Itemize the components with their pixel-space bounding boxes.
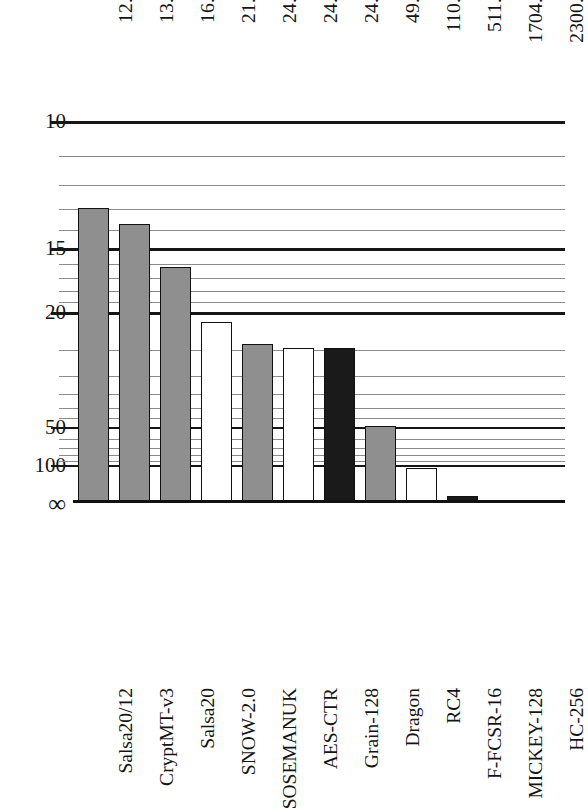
value-label: 110.61: [435, 0, 473, 82]
category-label: Grain-128: [353, 688, 391, 812]
value-label: 1704.76: [517, 0, 555, 82]
value-label: 2300.90: [558, 0, 588, 82]
bar-salsa20: [160, 267, 190, 503]
value-label: 16.17: [189, 0, 227, 82]
axis-tick: [59, 350, 73, 351]
category-label: SNOW-2.0: [230, 688, 268, 812]
category-label: CryptMT-v3: [148, 688, 186, 812]
axis-tick: [59, 278, 73, 279]
value-label: 24.66: [312, 0, 350, 82]
value-label: 24.07: [271, 0, 309, 82]
bar-snow-2-0: [201, 322, 231, 503]
category-label: Dragon: [394, 688, 432, 812]
bar-rc4: [406, 468, 436, 503]
axis-tick: [59, 156, 73, 157]
axis-tick: [59, 264, 73, 265]
axis-tick: [59, 291, 73, 292]
bar-aes-ctr: [283, 348, 313, 503]
value-label: 12.96: [107, 0, 145, 82]
category-label: MICKEY-128: [517, 688, 555, 812]
bar-sosemanuk: [242, 344, 272, 503]
category-label: F-FCSR-16: [476, 688, 514, 812]
category-label: Salsa20/12: [107, 688, 145, 812]
value-label: 13.69: [148, 0, 186, 82]
axis-tick: [59, 439, 73, 440]
axis-tick: [59, 302, 73, 303]
category-label: SOSEMANUK: [271, 688, 309, 812]
axis-tick: [59, 418, 73, 419]
value-label: 21.10: [230, 0, 268, 82]
category-label-row: Salsa20/12CryptMT-v3Salsa20SNOW-2.0SOSEM…: [0, 512, 576, 692]
axis-tick: [59, 230, 73, 231]
axis-tick: [59, 394, 73, 395]
bar-cryptmt-v3: [119, 224, 149, 503]
axis-tick: [59, 461, 73, 462]
axis-tick: [59, 185, 73, 186]
category-label: AES-CTR: [312, 688, 350, 812]
bar-grain-128: [324, 348, 354, 503]
axis-tick: [59, 209, 73, 210]
axis-tick: [51, 248, 73, 251]
axis-tick: [59, 408, 73, 409]
axis-tick: [59, 455, 73, 456]
category-label: HC-256: [558, 688, 588, 812]
bar-salsa20-12: [78, 208, 108, 503]
category-label: Salsa20: [189, 688, 227, 812]
category-label: RC4: [435, 688, 473, 812]
axis-tick: [59, 448, 73, 449]
axis-tick: [59, 376, 73, 377]
plot-area: [73, 121, 565, 503]
axis-tick: [51, 312, 73, 315]
axis-tick: [51, 427, 73, 430]
x-axis-baseline: [73, 500, 565, 503]
axis-tick: [51, 121, 73, 124]
value-label: 24.69: [353, 0, 391, 82]
value-label: 511.28: [476, 0, 514, 82]
value-label: 49.54: [394, 0, 432, 82]
bar-dragon: [365, 426, 395, 503]
bar-series: [73, 121, 565, 503]
axis-tick: [51, 465, 73, 468]
value-label-row: 12.9613.6916.1721.1024.0724.6624.6949.54…: [0, 0, 576, 120]
